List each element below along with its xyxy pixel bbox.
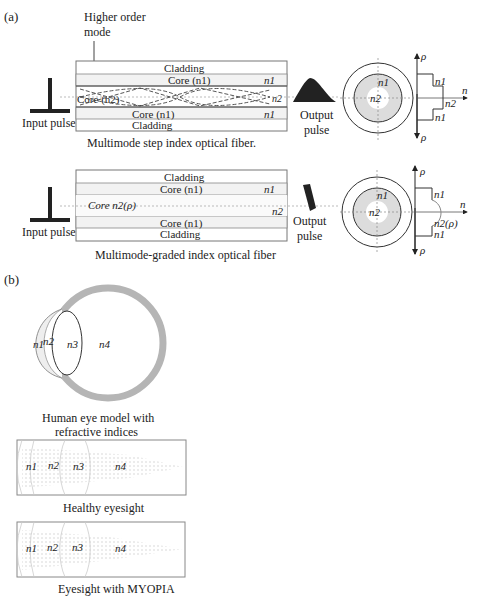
- graded-profile-rho-top: ρ: [419, 165, 425, 177]
- step-index-fiber: Input pulse Cladding Core (n1) Core (n2)…: [22, 50, 468, 150]
- step-index-caption: Multimode step index optical fiber.: [87, 136, 256, 150]
- graded-cross-n1: n1: [377, 189, 388, 201]
- healthy-n3: n3: [73, 460, 85, 472]
- output-label-1-2: Output: [293, 214, 327, 228]
- profile-n2: n2: [445, 97, 457, 109]
- graded-n1-label: n1: [264, 183, 275, 195]
- healthy-n2: n2: [48, 459, 60, 471]
- output-label-1: Output: [300, 108, 334, 122]
- eye-model: n1 n2 n3 n4 Human eye model with refract…: [33, 288, 163, 439]
- graded-profile-n1-bottom: n1: [434, 228, 445, 240]
- n1-top-label: n1: [264, 74, 275, 86]
- graded-profile-rho-bottom: ρ: [419, 244, 425, 256]
- profile-n1-bottom: n1: [435, 111, 446, 123]
- step-index-profile: ρ ρ n n1 n2 n1: [417, 50, 468, 143]
- output-label-2-2: pulse: [297, 229, 322, 243]
- step-cross-section: n1 n2: [340, 58, 416, 140]
- myopia-n3: n3: [72, 541, 84, 553]
- core-top-label-2: Core (n1): [160, 183, 203, 196]
- panel-b-label: (b): [4, 272, 19, 287]
- graded-index-fiber: Input pulse Cladding Core (n1) Core n2(ρ…: [22, 165, 467, 262]
- profile-n-axis: n: [462, 84, 468, 96]
- myopia-n2: n2: [47, 541, 59, 553]
- output-pulse-icon: [293, 78, 336, 102]
- cladding-bottom-label-2: Cladding: [160, 228, 201, 240]
- profile-rho-top: ρ: [420, 50, 426, 62]
- cladding-top-label-2: Cladding: [164, 171, 205, 183]
- core-center-label-2: Core n2(ρ): [88, 199, 136, 212]
- core-top-label: Core (n1): [168, 74, 211, 87]
- output-pulse-icon-2: [303, 184, 316, 211]
- profile-n1-top: n1: [435, 75, 446, 87]
- cross-n2-label: n2: [370, 92, 382, 104]
- input-pulse-label-2: Input pulse: [22, 225, 76, 239]
- panel-a-label: (a): [4, 9, 18, 24]
- myopia-n4: n4: [115, 542, 127, 554]
- cladding-top-label: Cladding: [164, 62, 205, 74]
- graded-cross-n2: n2: [369, 206, 381, 218]
- eye-caption-2: refractive indices: [55, 425, 138, 439]
- eye-caption-1: Human eye model with: [42, 411, 154, 425]
- eye-n4: n4: [99, 338, 111, 350]
- graded-index-caption: Multimode-graded index optical fiber: [95, 248, 276, 262]
- healthy-n1: n1: [26, 460, 37, 472]
- myopia-n1: n1: [26, 542, 37, 554]
- eye-n3: n3: [67, 338, 79, 350]
- input-pulse-label: Input pulse: [22, 116, 76, 130]
- graded-index-profile: ρ ρ n n1 n2(ρ) n1: [415, 165, 467, 256]
- healthy-eyesight-panel: n1 n2 n3 n4 Healthy eyesight: [17, 440, 186, 515]
- n2-label: n2: [272, 93, 282, 104]
- profile-rho-bottom: ρ: [420, 131, 426, 143]
- input-pulse-icon: [48, 78, 52, 111]
- cladding-bottom-label: Cladding: [132, 119, 173, 131]
- graded-n2-label: n2: [272, 205, 284, 217]
- cross-n1-label: n1: [378, 76, 389, 88]
- input-pulse-icon-2: [48, 187, 52, 220]
- n1-bottom-label: n1: [264, 108, 275, 120]
- graded-profile-n-axis: n: [460, 198, 466, 210]
- graded-profile-n1-top: n1: [434, 188, 445, 200]
- graded-cross-section: n1 n2: [340, 170, 416, 254]
- myopia-caption: Eyesight with MYOPIA: [58, 582, 175, 596]
- healthy-n4: n4: [115, 460, 127, 472]
- higher-order-mode-label-2: mode: [84, 25, 111, 39]
- higher-order-mode-label-1: Higher order: [84, 10, 146, 24]
- output-label-2: pulse: [304, 123, 329, 137]
- healthy-caption: Healthy eyesight: [63, 501, 145, 515]
- figure-canvas: (a) Higher order mode Input pulse Claddi…: [0, 0, 482, 607]
- eye-n2: n2: [43, 335, 55, 347]
- myopia-eyesight-panel: n1 n2 n3 n4 Eyesight with MYOPIA: [17, 522, 185, 596]
